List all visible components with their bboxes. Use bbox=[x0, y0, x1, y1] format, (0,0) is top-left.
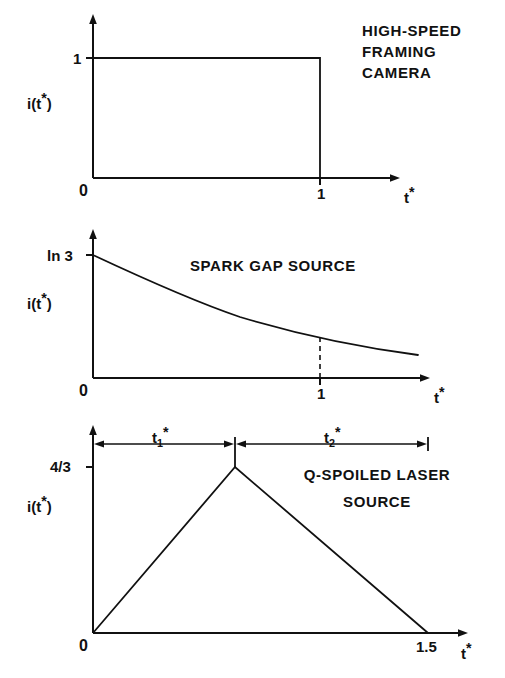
dim-arrowhead-t2-left bbox=[236, 440, 246, 447]
plot-exponential-decay bbox=[0, 215, 505, 405]
caption-line: Q-SPOILED LASER bbox=[282, 467, 472, 482]
y-axis-arrowhead bbox=[89, 229, 97, 239]
caption-line: HIGH-SPEED bbox=[362, 23, 461, 38]
y-tick-label-4-3: 4/3 bbox=[50, 459, 71, 474]
y-axis-arrowhead bbox=[89, 14, 97, 24]
x-tick-label-1: 1 bbox=[317, 186, 325, 201]
dim-arrowhead-t2-right bbox=[417, 440, 427, 447]
caption-line: SOURCE bbox=[282, 494, 472, 509]
x-axis-arrowhead bbox=[390, 174, 400, 182]
panel-spark-gap-source: i(t*) ln 3 0 1 t* SPARK GAP SOURCE bbox=[0, 215, 505, 405]
panel-q-spoiled-laser-source: i(t*) 4/3 0 1.5 t* t1* t2* Q-SPOILED LAS… bbox=[0, 405, 505, 678]
panel-caption: Q-SPOILED LASER SOURCE bbox=[282, 467, 472, 509]
x-axis-label: t* bbox=[404, 190, 415, 205]
panel-caption: SPARK GAP SOURCE bbox=[190, 258, 356, 273]
dim-arrowhead-t1-left bbox=[94, 440, 104, 447]
y-axis-label: i(t*) bbox=[27, 96, 52, 111]
x-axis-label: t* bbox=[461, 646, 472, 661]
caption-line: SPARK GAP SOURCE bbox=[190, 258, 356, 273]
dim-arrowhead-t1-right bbox=[224, 440, 234, 447]
panel-high-speed-framing-camera: i(t*) 1 0 1 t* HIGH-SPEED FRAMING CAMERA bbox=[0, 0, 505, 215]
origin-label: 0 bbox=[79, 183, 88, 199]
dimension-label-t2: t2* bbox=[324, 430, 341, 445]
y-tick-label-ln3: ln 3 bbox=[47, 248, 73, 263]
data-curve-rectangular-pulse bbox=[93, 58, 320, 178]
x-axis-arrowhead bbox=[458, 629, 468, 637]
y-axis-label: i(t*) bbox=[27, 499, 52, 514]
panel-caption: HIGH-SPEED FRAMING CAMERA bbox=[362, 23, 461, 80]
x-tick-label-1: 1 bbox=[317, 386, 325, 401]
y-axis-label: i(t*) bbox=[27, 296, 52, 311]
caption-line: FRAMING bbox=[362, 44, 461, 59]
dimension-label-t1: t1* bbox=[152, 430, 169, 445]
figure-three-source-intensity-profiles: i(t*) 1 0 1 t* HIGH-SPEED FRAMING CAMERA bbox=[0, 0, 505, 678]
origin-label: 0 bbox=[79, 383, 88, 399]
y-axis-arrowhead bbox=[89, 425, 97, 435]
caption-line: CAMERA bbox=[362, 65, 461, 80]
y-tick-label-1: 1 bbox=[73, 51, 81, 66]
x-axis-label: t* bbox=[434, 390, 445, 405]
x-axis-arrowhead bbox=[420, 374, 430, 382]
x-tick-label-1-5: 1.5 bbox=[416, 639, 437, 654]
origin-label: 0 bbox=[79, 638, 88, 654]
